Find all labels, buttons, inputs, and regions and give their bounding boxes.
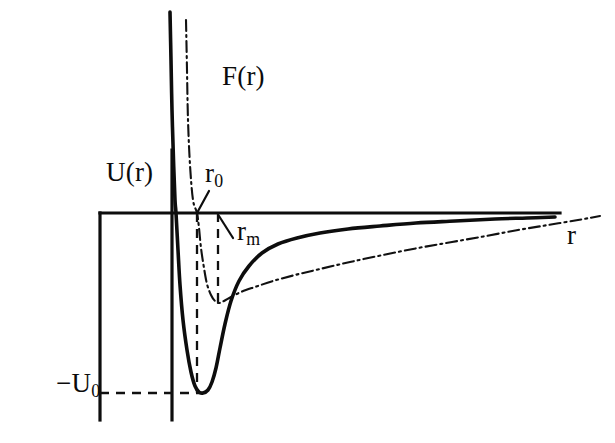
label-well-depth: −U0 — [56, 370, 100, 401]
label-r-zero-subscript: 0 — [214, 171, 223, 191]
label-well-depth-subscript: 0 — [91, 381, 100, 401]
label-potential-curve: U(r) — [106, 159, 153, 186]
label-well-depth-base: −U — [56, 368, 91, 398]
label-r-min-subscript: m — [246, 229, 260, 249]
label-r-min: rm — [237, 218, 260, 249]
label-r-zero: r0 — [205, 160, 223, 191]
label-r-zero-base: r — [205, 158, 214, 188]
label-r-axis: r — [567, 222, 576, 249]
leader-line-r-zero — [197, 191, 209, 213]
figure-container: U(r) F(r) r0 rm r −U0 — [0, 0, 615, 443]
label-r-min-base: r — [237, 216, 246, 246]
leader-line-r-min — [219, 216, 233, 238]
label-force-curve: F(r) — [222, 63, 265, 90]
